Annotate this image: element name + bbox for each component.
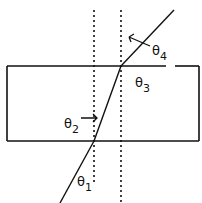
theta1-label: θ1 — [77, 174, 92, 194]
theta4-arrow-icon — [129, 34, 150, 46]
slab — [7, 66, 199, 141]
refracted-ray — [94, 66, 121, 141]
theta4-label: θ4 — [152, 43, 167, 63]
theta3-label: θ3 — [135, 75, 150, 95]
refraction-diagram: θ4 θ3 θ2 θ1 — [0, 0, 202, 203]
theta2-arrow-icon — [81, 114, 97, 122]
theta2-label: θ2 — [64, 116, 79, 136]
normals — [94, 10, 121, 203]
